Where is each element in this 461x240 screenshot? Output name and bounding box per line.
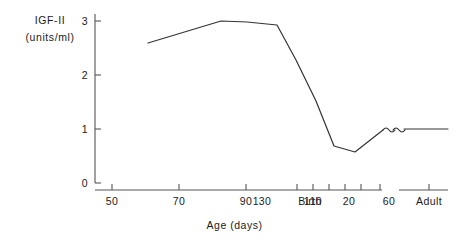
x-axis-title-label: Age (days) [207, 219, 263, 231]
data-line-igf2 [148, 21, 383, 152]
y-tick-label-0: 0 [82, 177, 88, 189]
x-tick-label-130: 130 [253, 195, 272, 207]
x-tick-label-20: 20 [343, 195, 355, 207]
x-tick-label-60: 60 [383, 195, 395, 207]
x-tick-label-50: 50 [106, 195, 118, 207]
y-tick-label-2: 2 [82, 69, 88, 81]
x-tick-label-adult: Adult [416, 195, 442, 207]
x-tick-label-70: 70 [173, 195, 185, 207]
axis-break-squiggle-icon [383, 128, 405, 132]
y-tick-label-1: 1 [82, 123, 88, 135]
chart-figure: IGF-II (units/ml) 3 2 1 0 50 [0, 0, 461, 240]
x-axis-title: Age (days) [0, 219, 461, 231]
y-axis-title-line1: IGF-II [14, 12, 86, 29]
x-tick-label-90: 90 [240, 195, 252, 207]
x-tick-label-birth: Birth [298, 195, 322, 207]
y-axis-title: IGF-II (units/ml) [14, 12, 86, 46]
y-axis-title-line2: (units/ml) [14, 29, 86, 46]
